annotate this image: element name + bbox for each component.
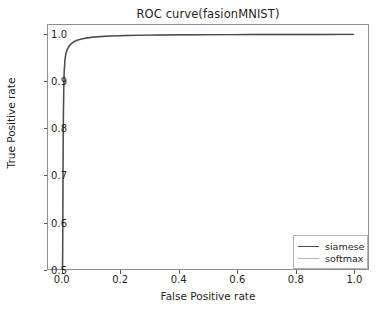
- chart-legend: siamese softmax: [293, 235, 368, 269]
- x-tick-mark: [237, 270, 238, 274]
- x-tick-label: 0.8: [288, 274, 304, 285]
- x-tick-label: 1.0: [346, 274, 362, 285]
- y-tick-mark: [44, 175, 48, 176]
- y-tick-mark: [44, 34, 48, 35]
- legend-item-siamese: siamese: [298, 240, 362, 252]
- x-axis-label: False Positive rate: [47, 290, 369, 302]
- x-tick-mark: [120, 270, 121, 274]
- y-tick-mark: [44, 223, 48, 224]
- x-tick-mark: [179, 270, 180, 274]
- x-tick-label: 0.0: [54, 274, 70, 285]
- legend-item-softmax: softmax: [298, 252, 362, 264]
- series-line-siamese: [63, 34, 354, 269]
- legend-swatch-softmax: [298, 258, 319, 259]
- y-axis-label: True Positive rate: [5, 58, 17, 188]
- y-tick-mark: [44, 128, 48, 129]
- series-line-softmax: [63, 34, 354, 269]
- x-tick-label: 0.2: [112, 274, 128, 285]
- y-tick-label: 0.7: [51, 170, 67, 181]
- y-tick-label: 0.9: [51, 75, 67, 86]
- legend-label-softmax: softmax: [325, 253, 363, 264]
- x-tick-label: 0.6: [229, 274, 245, 285]
- x-tick-label: 0.4: [171, 274, 187, 285]
- plot-area: [47, 24, 369, 270]
- chart-title: ROC curve(fasionMNIST): [47, 7, 369, 21]
- y-tick-mark: [44, 270, 48, 271]
- y-tick-label: 1.0: [51, 28, 67, 39]
- legend-label-siamese: siamese: [325, 241, 364, 252]
- legend-swatch-siamese: [298, 246, 319, 247]
- roc-chart-figure: ROC curve(fasionMNIST) 0.00.20.40.60.81.…: [0, 0, 385, 314]
- y-tick-label: 0.8: [51, 123, 67, 134]
- roc-curves-svg: [48, 25, 368, 269]
- y-tick-label: 0.5: [51, 265, 67, 276]
- y-tick-label: 0.6: [51, 217, 67, 228]
- x-tick-mark: [354, 270, 355, 274]
- x-tick-mark: [296, 270, 297, 274]
- y-tick-mark: [44, 81, 48, 82]
